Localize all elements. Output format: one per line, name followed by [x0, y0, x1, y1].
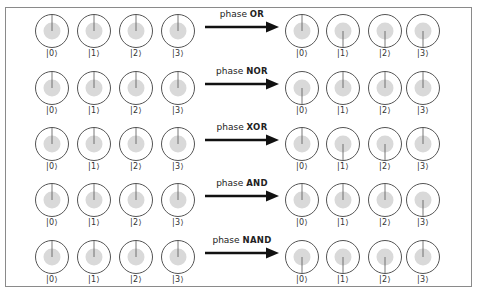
output-qubit-state-0: |0⟩ — [284, 13, 320, 59]
input-qubit-state-0: |0⟩ — [34, 239, 70, 285]
ket-label: |3⟩ — [405, 218, 441, 227]
output-qubit-state-1: |1⟩ — [325, 70, 361, 116]
operation-prefix: phase — [220, 9, 247, 19]
ket-label: |2⟩ — [367, 106, 403, 115]
operation-arrow-group: phase OR — [204, 9, 280, 39]
phase-circle-icon — [34, 239, 70, 275]
ket-label: |1⟩ — [325, 218, 361, 227]
ket-label: |0⟩ — [284, 162, 320, 171]
phase-circle-icon — [284, 70, 320, 106]
ket-label: |1⟩ — [76, 218, 112, 227]
output-qubit-state-3: |3⟩ — [405, 239, 441, 285]
ket-label: |2⟩ — [118, 106, 154, 115]
output-qubit-state-3: |3⟩ — [405, 182, 441, 228]
right-arrow-icon — [204, 247, 280, 259]
phase-circle-icon — [118, 239, 154, 275]
output-qubit-state-3: |3⟩ — [405, 70, 441, 116]
phase-circle-icon — [118, 70, 154, 106]
row-or: |0⟩ |1⟩ |2⟩ — [0, 13, 478, 69]
ket-label: |3⟩ — [160, 106, 196, 115]
ket-label: |1⟩ — [76, 49, 112, 58]
output-qubit-state-2: |2⟩ — [367, 126, 403, 172]
phase-circle-icon — [367, 13, 403, 49]
operation-name: NAND — [242, 235, 271, 245]
phase-circle-icon — [76, 70, 112, 106]
ket-label: |1⟩ — [76, 106, 112, 115]
ket-label: |3⟩ — [160, 162, 196, 171]
ket-label: |0⟩ — [284, 49, 320, 58]
phase-circle-icon — [325, 239, 361, 275]
phase-circle-icon — [34, 126, 70, 162]
ket-label: |2⟩ — [118, 218, 154, 227]
ket-label: |2⟩ — [118, 162, 154, 171]
phase-circle-icon — [34, 70, 70, 106]
operation-label: phase XOR — [204, 122, 280, 132]
operation-label: phase AND — [204, 178, 280, 188]
output-qubit-state-2: |2⟩ — [367, 70, 403, 116]
ket-label: |2⟩ — [118, 275, 154, 284]
phase-circle-icon — [325, 70, 361, 106]
input-qubit-state-0: |0⟩ — [34, 13, 70, 59]
input-qubit-state-3: |3⟩ — [160, 239, 196, 285]
output-qubit-state-0: |0⟩ — [284, 182, 320, 228]
output-qubit-state-2: |2⟩ — [367, 182, 403, 228]
input-qubit-state-0: |0⟩ — [34, 70, 70, 116]
ket-label: |2⟩ — [367, 49, 403, 58]
ket-label: |0⟩ — [34, 275, 70, 284]
operation-label: phase OR — [204, 9, 280, 19]
input-qubit-state-0: |0⟩ — [34, 182, 70, 228]
phase-circle-icon — [367, 239, 403, 275]
input-qubit-state-2: |2⟩ — [118, 70, 154, 116]
operation-prefix: phase — [217, 122, 244, 132]
operation-name: XOR — [247, 122, 268, 132]
row-and: |0⟩ |1⟩ |2⟩ — [0, 182, 478, 238]
operation-label: phase NOR — [204, 66, 280, 76]
phase-circle-icon — [76, 182, 112, 218]
operation-prefix: phase — [216, 178, 243, 188]
input-qubit-state-3: |3⟩ — [160, 13, 196, 59]
input-qubit-state-0: |0⟩ — [34, 126, 70, 172]
phase-circle-icon — [34, 13, 70, 49]
input-qubit-state-3: |3⟩ — [160, 70, 196, 116]
ket-label: |1⟩ — [76, 162, 112, 171]
phase-circle-icon — [325, 126, 361, 162]
output-qubit-state-1: |1⟩ — [325, 13, 361, 59]
input-qubit-state-3: |3⟩ — [160, 182, 196, 228]
ket-label: |2⟩ — [367, 275, 403, 284]
phase-circle-icon — [367, 182, 403, 218]
ket-label: |1⟩ — [325, 49, 361, 58]
row-xor: |0⟩ |1⟩ |2⟩ — [0, 126, 478, 182]
input-qubit-state-3: |3⟩ — [160, 126, 196, 172]
phase-circle-icon — [284, 182, 320, 218]
phase-circle-icon — [284, 239, 320, 275]
output-qubit-state-1: |1⟩ — [325, 239, 361, 285]
right-arrow-icon — [204, 21, 280, 33]
output-qubit-state-0: |0⟩ — [284, 239, 320, 285]
phase-circle-icon — [284, 13, 320, 49]
ket-label: |0⟩ — [34, 49, 70, 58]
output-qubit-state-3: |3⟩ — [405, 126, 441, 172]
phase-circle-icon — [405, 126, 441, 162]
ket-label: |0⟩ — [34, 218, 70, 227]
ket-label: |0⟩ — [284, 218, 320, 227]
output-qubit-state-1: |1⟩ — [325, 126, 361, 172]
ket-label: |3⟩ — [160, 275, 196, 284]
phase-circle-icon — [76, 13, 112, 49]
output-qubit-state-0: |0⟩ — [284, 70, 320, 116]
phase-circle-icon — [405, 13, 441, 49]
phase-circle-icon — [160, 70, 196, 106]
ket-label: |1⟩ — [325, 275, 361, 284]
phase-circle-icon — [118, 126, 154, 162]
input-qubit-state-2: |2⟩ — [118, 182, 154, 228]
ket-label: |0⟩ — [34, 106, 70, 115]
ket-label: |0⟩ — [284, 275, 320, 284]
right-arrow-icon — [204, 134, 280, 146]
input-qubit-state-2: |2⟩ — [118, 13, 154, 59]
phase-circle-icon — [325, 13, 361, 49]
phase-circle-icon — [34, 182, 70, 218]
ket-label: |3⟩ — [160, 218, 196, 227]
ket-label: |2⟩ — [118, 49, 154, 58]
ket-label: |2⟩ — [367, 162, 403, 171]
ket-label: |3⟩ — [405, 275, 441, 284]
ket-label: |1⟩ — [325, 162, 361, 171]
